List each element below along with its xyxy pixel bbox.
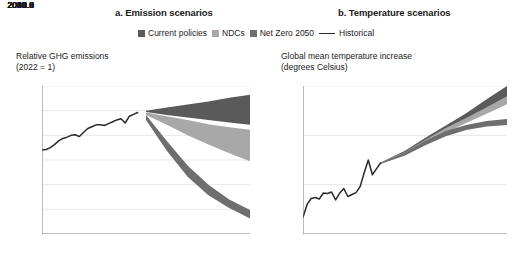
panel-a-svg: [42, 86, 250, 234]
legend-swatch-net-zero-2050: [250, 30, 257, 37]
legend-swatch-current-policies: [138, 30, 145, 37]
legend-item-net-zero-2050: Net Zero 2050: [250, 28, 314, 38]
panel-b-plot-area: [303, 86, 507, 234]
panel-a-plot-area: [42, 86, 250, 234]
panel-b-y-axis-title: Global mean temperature increase (degree…: [281, 51, 412, 72]
legend-item-historical: Historical: [319, 28, 374, 38]
legend-item-ndcs: NDCs: [212, 28, 245, 38]
panel-b-y-axis-title-line1: Global mean temperature increase: [281, 51, 412, 62]
panel-a-title: a. Emission scenarios: [115, 7, 213, 18]
legend-label-net-zero-2050: Net Zero 2050: [260, 28, 314, 38]
legend-item-current-policies: Current policies: [138, 28, 207, 38]
chart-legend: Current policies NDCs Net Zero 2050 Hist…: [138, 28, 374, 38]
panel-a-y-axis-title: Relative GHG emissions (2022 = 1): [16, 51, 109, 72]
panel-b-svg: [303, 86, 507, 234]
legend-label-historical: Historical: [339, 28, 374, 38]
panel-a-y-axis-title-line1: Relative GHG emissions: [16, 51, 109, 62]
legend-label-ndcs: NDCs: [222, 28, 245, 38]
legend-swatch-ndcs: [212, 30, 219, 37]
legend-label-current-policies: Current policies: [148, 28, 207, 38]
panel-a-y-axis-title-line2: (2022 = 1): [16, 62, 109, 73]
figure-root: a. Emission scenarios b. Temperature sce…: [0, 0, 531, 268]
panel-b-title: b. Temperature scenarios: [338, 7, 451, 18]
panel-b-y-axis-title-line2: (degrees Celsius): [281, 62, 412, 73]
panel-b-xtick-5: 2050: [0, 0, 34, 10]
legend-line-historical: [319, 33, 335, 34]
